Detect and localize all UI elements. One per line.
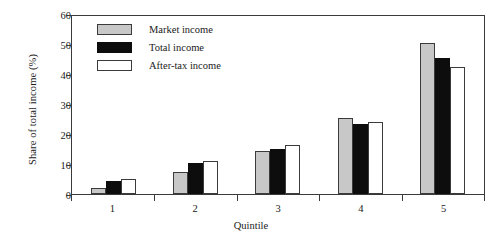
bar-total-q3 bbox=[270, 149, 285, 194]
bar-market-q3 bbox=[255, 151, 270, 195]
bar-market-q1 bbox=[91, 188, 106, 194]
legend-item: After-tax income bbox=[97, 60, 221, 71]
bar-aftertax-q1 bbox=[121, 179, 136, 194]
x-axis-title: Quintile bbox=[0, 220, 502, 231]
bar-group-quintile-5 bbox=[420, 16, 465, 194]
x-axis-tick-mark bbox=[237, 195, 238, 201]
legend-item-label: Market income bbox=[149, 24, 213, 35]
gray-swatch bbox=[97, 24, 132, 35]
x-axis-tick-label: 2 bbox=[180, 203, 210, 214]
bar-total-q4 bbox=[353, 124, 368, 195]
bar-aftertax-q2 bbox=[203, 161, 218, 194]
x-axis-tick-mark bbox=[154, 195, 155, 201]
bar-total-q5 bbox=[435, 58, 450, 195]
bar-market-q4 bbox=[338, 118, 353, 195]
x-axis-tick-label: 5 bbox=[429, 203, 459, 214]
legend-item-label: Total income bbox=[149, 42, 204, 53]
bar-total-q1 bbox=[106, 181, 121, 195]
bar-group-quintile-4 bbox=[338, 16, 383, 194]
bar-total-q2 bbox=[188, 163, 203, 194]
white-swatch bbox=[97, 60, 132, 71]
bar-aftertax-q5 bbox=[450, 67, 465, 195]
bar-chart-figure: Share of total income (%) 0102030405060 … bbox=[0, 0, 502, 252]
x-axis-tick-label: 1 bbox=[97, 203, 127, 214]
legend-item: Market income bbox=[97, 24, 221, 35]
chart-legend: Market incomeTotal incomeAfter-tax incom… bbox=[97, 24, 221, 71]
x-axis-tick-mark bbox=[484, 195, 485, 201]
x-axis-tick-label: 3 bbox=[263, 203, 293, 214]
legend-item-label: After-tax income bbox=[149, 60, 221, 71]
x-axis-tick-mark bbox=[71, 195, 72, 201]
x-axis-tick-mark bbox=[402, 195, 403, 201]
x-axis-tick-mark bbox=[319, 195, 320, 201]
legend-item: Total income bbox=[97, 42, 221, 53]
bar-market-q2 bbox=[173, 172, 188, 194]
bar-market-q5 bbox=[420, 43, 435, 194]
bar-aftertax-q4 bbox=[368, 122, 383, 194]
bar-group-quintile-3 bbox=[255, 16, 300, 194]
black-swatch bbox=[97, 42, 132, 53]
x-axis-tick-label: 4 bbox=[346, 203, 376, 214]
bar-aftertax-q3 bbox=[285, 145, 300, 194]
y-axis-title: Share of total income (%) bbox=[27, 20, 38, 200]
